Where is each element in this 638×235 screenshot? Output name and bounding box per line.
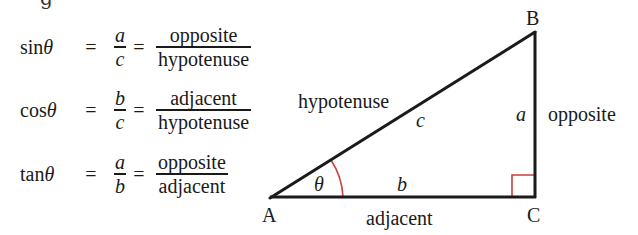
vertex-b-label: B [526, 7, 539, 29]
right-angle-marker-icon [512, 175, 534, 197]
opposite-label: opposite [548, 103, 616, 126]
angle-theta-label: θ [314, 173, 324, 195]
side-a-label: a [516, 103, 526, 125]
adjacent-label: adjacent [366, 207, 433, 230]
side-c-label: c [416, 109, 425, 131]
side-b-label: b [397, 173, 407, 195]
vertex-a-label: A [262, 204, 277, 226]
angle-arc-icon [331, 160, 343, 197]
hypotenuse-label: hypotenuse [298, 90, 389, 113]
vertex-c-label: C [527, 204, 540, 226]
right-triangle-diagram: B A C c a b θ hypotenuse opposite adjace… [0, 0, 638, 235]
